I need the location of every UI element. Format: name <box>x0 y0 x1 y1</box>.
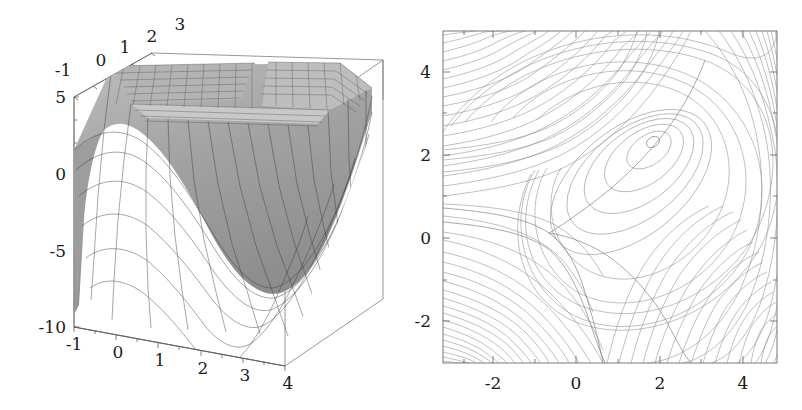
y-tick-label-4: 3 <box>175 14 186 34</box>
y-tick-label-3: 2 <box>147 26 158 46</box>
y-tick-label-0: -1 <box>55 60 72 80</box>
x-tick-label-1: 0 <box>113 342 124 362</box>
z-tick-label-0: 5 <box>55 87 66 107</box>
y-tick-label-1: 0 <box>96 50 107 70</box>
contour-x-tick-label-3: 4 <box>738 373 749 393</box>
surface-z-axis: 5 0 -5 -10 <box>39 87 79 337</box>
contour-x-tick-label-1: 0 <box>571 373 582 393</box>
figure-container: 5 0 -5 -10 -1 0 1 2 3 <box>0 0 802 410</box>
surface-plot-svg: 5 0 -5 -10 -1 0 1 2 3 <box>0 0 401 410</box>
contour-y-tick-label-3: -2 <box>414 311 431 331</box>
x-tick-label-4: 3 <box>240 365 251 385</box>
contour-x-tick-label-2: 2 <box>655 373 666 393</box>
contour-x-tick-label-0: -2 <box>485 373 502 393</box>
y-tick-label-2: 1 <box>120 37 131 57</box>
x-tick-label-2: 1 <box>155 350 166 370</box>
contour-y-tick-label-1: 2 <box>420 145 431 165</box>
contour-plot-panel: -2 0 2 4 4 2 0 -2 <box>401 0 802 410</box>
z-tick-label-3: -10 <box>39 317 66 337</box>
surface-plot-panel: 5 0 -5 -10 -1 0 1 2 3 <box>0 0 401 410</box>
contour-y-tick-label-0: 4 <box>420 62 431 82</box>
x-tick-label-5: 4 <box>283 373 294 393</box>
z-tick-label-2: -5 <box>49 241 66 261</box>
x-tick-label-3: 2 <box>198 358 209 378</box>
contour-y-tick-label-2: 0 <box>420 228 431 248</box>
z-tick-label-1: 0 <box>55 164 66 184</box>
contour-y-axis-labels: 4 2 0 -2 <box>414 62 431 331</box>
surface-x-axis: -1 0 1 2 3 4 <box>66 327 294 393</box>
contour-x-axis-labels: -2 0 2 4 <box>485 373 749 393</box>
surface-mesh <box>74 62 372 366</box>
contour-plot-svg: -2 0 2 4 4 2 0 -2 <box>401 0 802 410</box>
contour-lines <box>443 31 792 363</box>
x-tick-label-0: -1 <box>66 334 83 354</box>
